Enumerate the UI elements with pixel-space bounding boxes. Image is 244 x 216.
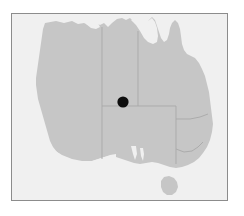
- map-frame: [11, 13, 228, 201]
- location-marker-dot[interactable]: [117, 96, 128, 107]
- australia-map[interactable]: [12, 14, 227, 200]
- tasmania-shape: [161, 176, 178, 195]
- australia-mainland-shape: [36, 17, 213, 168]
- screenshot-root: [0, 0, 244, 216]
